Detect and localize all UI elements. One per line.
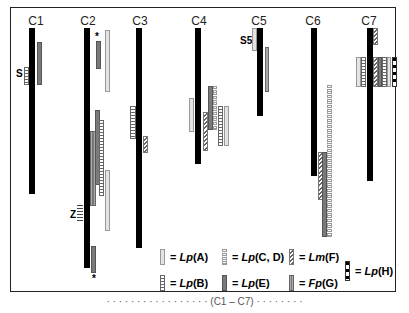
chromosome-label-c5: C5 <box>251 14 266 28</box>
chromosome-label-c4: C4 <box>191 14 206 28</box>
legend-item-lp-a: = Lp(A) <box>160 249 208 265</box>
segment-c1-lp-b <box>24 67 29 85</box>
chromosome-c5 <box>257 28 263 116</box>
segment-c4-lp-b <box>218 106 223 146</box>
segment-c7-lm-f-top <box>373 28 378 45</box>
chromosome-label-c3: C3 <box>132 14 147 28</box>
swatch-light-gray-icon <box>160 249 165 265</box>
chromosome-label-c6: C6 <box>305 14 320 28</box>
segment-c5-fp-g <box>265 47 269 92</box>
chromosome-c4 <box>195 28 201 164</box>
swatch-dotted-icon <box>222 249 227 265</box>
legend-item-lp-b: = Lp(B) <box>160 275 208 291</box>
asterisk-bottom: * <box>92 273 96 284</box>
segment-c4-lp-cd <box>213 86 217 130</box>
segment-c2-lp-a-top <box>105 30 110 92</box>
swatch-ladder-icon <box>160 275 165 291</box>
segment-c7-lp-b-left <box>361 57 366 87</box>
marker-z: Z <box>70 209 76 220</box>
swatch-dark-gray-icon <box>222 275 227 291</box>
segment-c5-lp-a <box>252 28 257 51</box>
swatch-striped-gray-icon <box>289 275 294 291</box>
segment-c3-lm-f <box>143 136 148 153</box>
legend-item-lp-e: = Lp(E) <box>222 275 270 291</box>
marker-s5: S5 <box>240 35 252 46</box>
segment-c4-lp-a <box>189 98 194 132</box>
marker-z-ticks <box>77 205 83 223</box>
legend-item-lp-cd: = Lp(C, D) <box>222 249 284 265</box>
chromosome-label-c7: C7 <box>361 14 376 28</box>
chromosome-label-c1: C1 <box>28 14 43 28</box>
chromosome-c1 <box>29 28 35 194</box>
chromosome-c7 <box>367 28 373 181</box>
chromosome-c3 <box>136 28 142 248</box>
segment-c2-lp-e-top <box>96 41 101 69</box>
swatch-black-dotted-icon <box>345 261 350 281</box>
segment-c2-lp-e-bottom <box>91 246 96 273</box>
segment-c2-lp-b <box>99 120 104 196</box>
swatch-hatched-icon <box>289 249 294 265</box>
segment-c7-lp-h <box>392 57 397 87</box>
segment-c6-lp-cd <box>327 85 332 237</box>
segment-c4-lp-a-right <box>224 106 229 146</box>
chromosome-label-c2: C2 <box>80 14 95 28</box>
legend-item-lm-f: = Lm(F) <box>289 249 339 265</box>
segment-c7-lp-a-right <box>387 57 391 87</box>
chromosome-c6 <box>311 28 317 176</box>
legend-item-fp-g: = Fp(G) <box>289 275 338 291</box>
marker-s: S <box>16 68 23 79</box>
caption-fragment: · · · · · · · · · · · · · · · · · (C1 – … <box>0 296 409 307</box>
segment-c3-lp-b <box>130 106 136 139</box>
segment-c6-lp-e <box>322 152 327 237</box>
legend-item-lp-h: = Lp(H) <box>345 261 393 281</box>
segment-c1-lp-e <box>37 42 42 85</box>
segment-c2-lp-a-bottom <box>105 170 110 231</box>
